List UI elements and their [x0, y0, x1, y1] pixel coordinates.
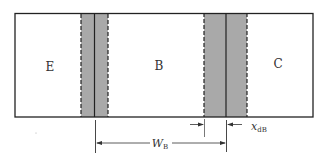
emitter-label: E	[46, 60, 55, 74]
xdb-arrowhead-left-icon	[198, 123, 204, 127]
base-label: B	[155, 59, 164, 73]
speck	[36, 133, 37, 134]
wb-arrowhead-right-icon	[220, 141, 226, 145]
base-width-label: WB	[152, 137, 168, 151]
wb-arrowhead-left-icon	[96, 141, 102, 145]
device-outline	[15, 14, 313, 118]
xdb-arrowhead-right-icon	[227, 123, 233, 127]
collector-label: C	[273, 57, 282, 71]
bjt-structure-diagram: E B C WB xdB	[0, 0, 325, 165]
depletion-base-width-label: xdB	[251, 120, 267, 134]
